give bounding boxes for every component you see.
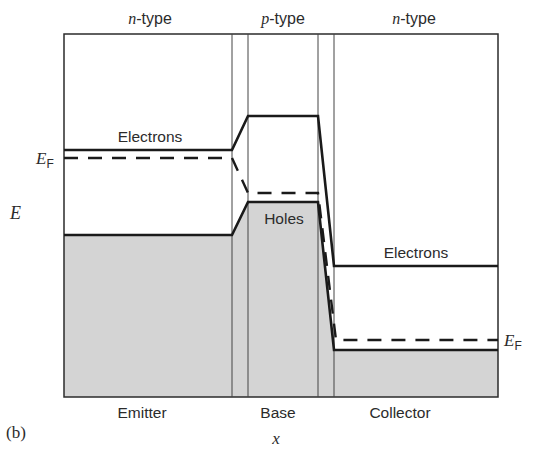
region-label-base: Base [260,404,295,421]
label-collector-electrons: Electrons [384,244,449,261]
label-base-holes: Holes [264,210,304,227]
label-emitter-electrons: Electrons [118,128,183,145]
region-type-collector: n-type [392,10,436,27]
valence-band-fill [64,202,498,397]
diagram-svg: n-type p-type n-type Electrons Holes Ele… [0,0,543,454]
region-type-emitter: n-type [128,10,172,27]
region-label-emitter: Emitter [117,404,166,421]
region-label-collector: Collector [369,404,430,421]
npn-band-diagram: n-type p-type n-type Electrons Holes Ele… [0,0,543,454]
fermi-label-left: EF [35,149,54,171]
x-axis-label: x [271,429,280,448]
y-axis-label: E [9,203,21,223]
fermi-label-right: EF [503,331,522,353]
panel-label: (b) [6,423,26,442]
region-type-base: p-type [260,10,305,28]
